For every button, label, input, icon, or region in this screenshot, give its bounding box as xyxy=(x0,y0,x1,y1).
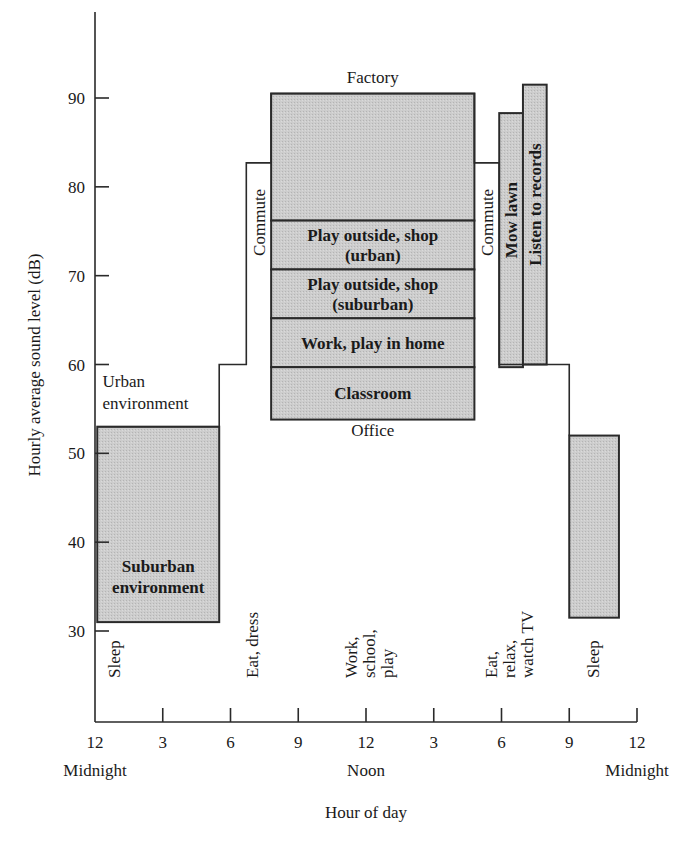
activity-label: Eat, xyxy=(482,651,501,678)
activity-label: watch TV xyxy=(518,610,537,678)
block-label: Work, play in home xyxy=(301,334,445,353)
activity-label: Eat, dress xyxy=(243,612,262,678)
x-tick-label: 9 xyxy=(294,733,303,752)
x-tick-label: 6 xyxy=(497,733,506,752)
y-tick-label: 60 xyxy=(68,356,85,375)
factory-block xyxy=(271,94,474,221)
x-tick-sublabel: Midnight xyxy=(63,761,127,780)
x-tick-label: 6 xyxy=(226,733,235,752)
y-tick-label: 30 xyxy=(68,622,85,641)
x-tick-label: 12 xyxy=(358,733,375,752)
activity-label: school, xyxy=(360,629,379,678)
x-tick-sublabel: Midnight xyxy=(605,761,669,780)
x-axis-label: Hour of day xyxy=(325,803,408,822)
y-tick-label: 50 xyxy=(68,444,85,463)
commute-label: Commute xyxy=(478,189,497,256)
x-tick-sublabel: Noon xyxy=(347,761,385,780)
x-tick-label: 9 xyxy=(565,733,574,752)
block-label: Listen to records xyxy=(526,143,545,266)
block-label: Classroom xyxy=(334,384,411,403)
activity-label: relax, xyxy=(500,640,519,678)
y-tick-label: 80 xyxy=(68,178,85,197)
y-tick-label: 40 xyxy=(68,533,85,552)
activity-label: play xyxy=(378,648,397,678)
annotation-label: Office xyxy=(351,421,394,440)
block-label: Mow lawn xyxy=(502,182,521,259)
annotation-label: Factory xyxy=(347,68,399,87)
x-tick-label: 3 xyxy=(159,733,168,752)
x-tick-label: 12 xyxy=(629,733,646,752)
x-tick-label: 12 xyxy=(87,733,104,752)
activity-label: Sleep xyxy=(105,640,124,678)
y-tick-label: 90 xyxy=(68,89,85,108)
sound-level-chart: 3040506070809012Midnight36912Noon36912Mi… xyxy=(0,0,690,841)
commute-label: Commute xyxy=(250,189,269,256)
sleep-suburban-late-night-block xyxy=(569,436,619,618)
activity-label: Sleep xyxy=(584,640,603,678)
y-tick-label: 70 xyxy=(68,267,85,286)
x-tick-label: 3 xyxy=(430,733,439,752)
activity-label: Work, xyxy=(342,636,361,678)
annotation-label: Urbanenvironment xyxy=(103,372,189,413)
y-axis-label: Hourly average sound level (dB) xyxy=(25,254,44,477)
